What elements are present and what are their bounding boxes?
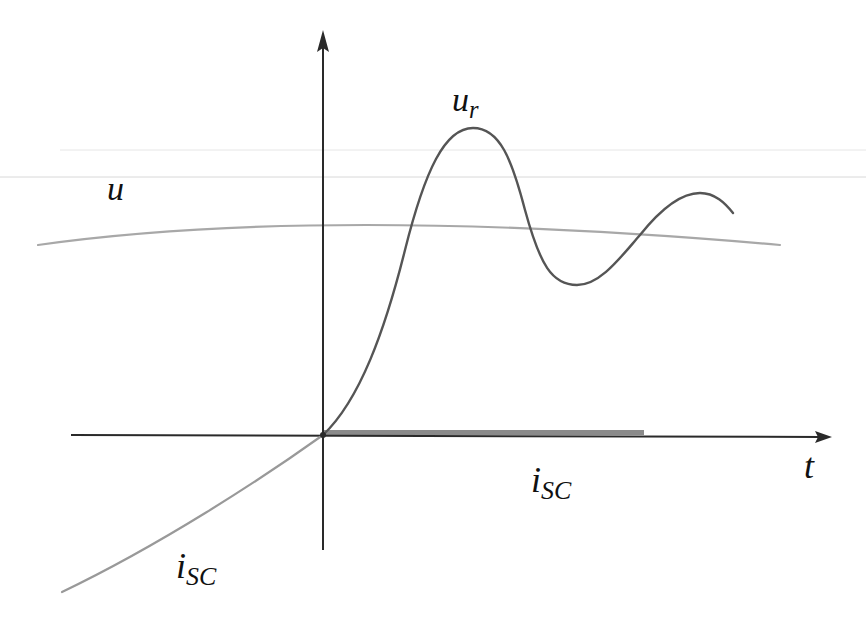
label-ur-main: u <box>452 81 469 118</box>
label-isc-left-main: i <box>176 546 186 586</box>
t-axis <box>71 435 822 437</box>
label-t-main: t <box>804 446 814 486</box>
ur-curve <box>323 128 733 435</box>
label-t: t <box>804 448 814 484</box>
label-ur: ur <box>452 83 479 117</box>
diagram-canvas <box>0 0 866 629</box>
origin-point <box>320 432 326 438</box>
label-isc-left: iSC <box>176 548 216 584</box>
label-u-main: u <box>107 170 124 207</box>
label-u: u <box>107 172 124 206</box>
label-ur-sub: r <box>469 96 479 123</box>
label-isc-right: iSC <box>531 462 571 498</box>
label-isc-left-sub: SC <box>186 562 216 591</box>
label-isc-right-sub: SC <box>541 476 571 505</box>
label-isc-right-main: i <box>531 460 541 500</box>
